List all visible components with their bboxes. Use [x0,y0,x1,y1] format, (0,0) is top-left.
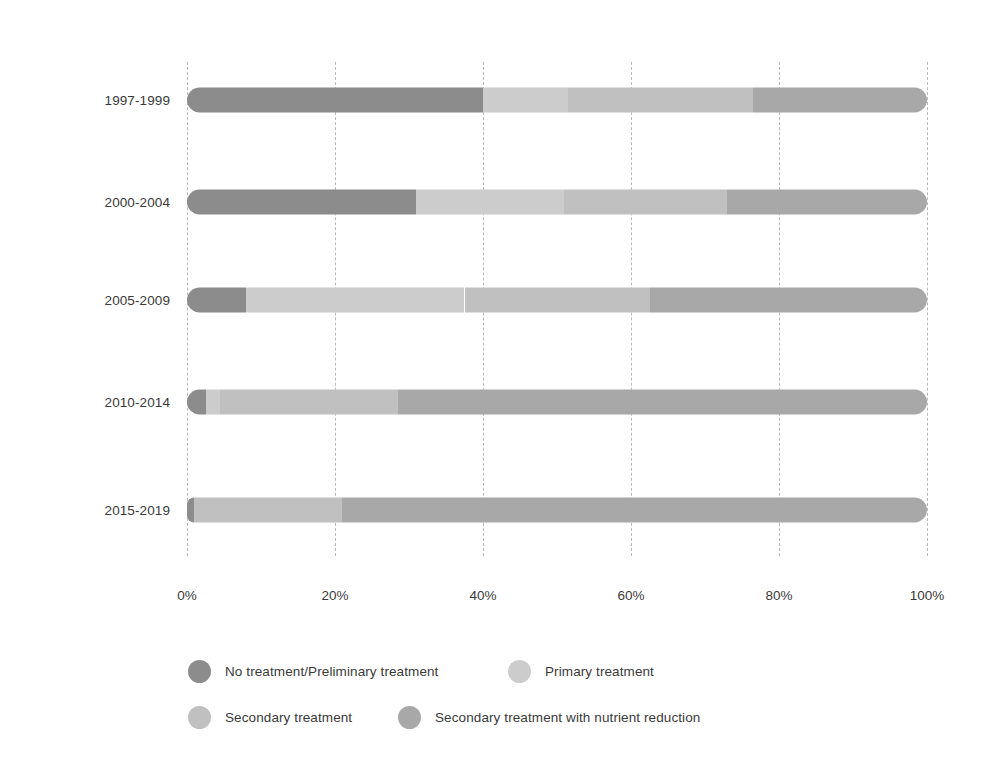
legend-label: Secondary treatment with nutrient reduct… [435,710,700,725]
bar-segment[interactable] [483,88,568,113]
bar-segment[interactable] [753,88,927,113]
bar-row[interactable] [187,88,927,113]
x-axis-tick-label: 20% [321,588,348,603]
legend-swatch-circle-icon [398,706,421,729]
bar-segment[interactable] [416,190,564,215]
y-axis-label: 1997-1999 [30,93,170,108]
bar-row[interactable] [187,288,927,313]
bar-segment[interactable] [187,190,416,215]
bar-segment[interactable] [206,390,221,415]
x-axis-tick-label: 60% [617,588,644,603]
legend-item[interactable]: Primary treatment [508,660,654,683]
bar-row[interactable] [187,390,927,415]
bar-segment[interactable] [187,390,206,415]
y-axis-label: 2000-2004 [30,195,170,210]
bar-segment[interactable] [246,288,464,313]
y-axis-label: 2005-2009 [30,293,170,308]
legend-row-1: No treatment/Preliminary treatmentPrimar… [188,660,828,706]
legend-swatch-circle-icon [188,706,211,729]
y-axis-labels: 1997-19992000-20042005-20092010-20142015… [0,62,170,556]
bar-segment[interactable] [342,498,927,523]
legend-swatch-circle-icon [508,660,531,683]
bar-segment[interactable] [187,288,246,313]
legend-label: Primary treatment [545,664,654,679]
y-axis-label: 2015-2019 [30,503,170,518]
stacked-bar-chart: 1997-19992000-20042005-20092010-20142015… [0,0,988,783]
bar-segment[interactable] [564,190,727,215]
legend-item[interactable]: No treatment/Preliminary treatment [188,660,438,683]
legend-item[interactable]: Secondary treatment [188,706,352,729]
plot-area [187,62,927,556]
bar-row[interactable] [187,190,927,215]
gridline-100 [927,62,928,556]
legend-item[interactable]: Secondary treatment with nutrient reduct… [398,706,700,729]
legend-swatch-circle-icon [188,660,211,683]
x-axis-tick-label: 80% [765,588,792,603]
legend-label: No treatment/Preliminary treatment [225,664,438,679]
bar-segment[interactable] [398,390,927,415]
bar-segment[interactable] [568,88,753,113]
x-axis-tick-label: 0% [177,588,197,603]
x-axis-tick-label: 100% [910,588,945,603]
chart-legend: No treatment/Preliminary treatmentPrimar… [188,660,828,752]
bar-segment[interactable] [727,190,927,215]
bar-segment[interactable] [187,498,194,523]
bar-segment[interactable] [465,288,650,313]
bar-segment[interactable] [194,498,342,523]
bar-segment[interactable] [220,390,398,415]
legend-label: Secondary treatment [225,710,352,725]
bar-segment[interactable] [187,88,483,113]
y-axis-label: 2010-2014 [30,395,170,410]
x-axis-tick-label: 40% [469,588,496,603]
bar-row[interactable] [187,498,927,523]
bar-segment[interactable] [650,288,928,313]
legend-row-2: Secondary treatmentSecondary treatment w… [188,706,828,752]
